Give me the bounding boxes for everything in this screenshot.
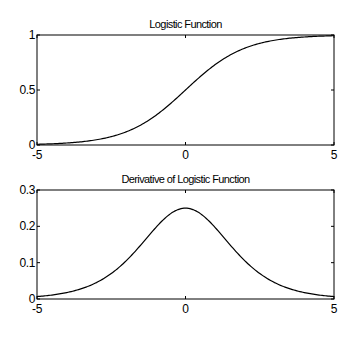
axes-box [37,190,334,299]
plot-title: Logistic Function [149,18,222,30]
y-tick-label: 1 [29,28,36,42]
x-tick-label: 0 [182,148,189,162]
y-tick-label: 0 [29,292,36,306]
plot-title: Derivative of Logistic Function [121,173,250,185]
figure: Logistic Function -50500.51 Derivative o… [0,0,356,337]
logistic-plot: Logistic Function -50500.51 [20,18,338,162]
series-line [37,208,334,296]
derivative-plot: Derivative of Logistic Function -50500.1… [20,173,338,316]
y-tick-label: 0.1 [20,256,36,270]
x-tick-label: 5 [331,148,338,162]
y-tick-label: 0.2 [20,219,36,233]
y-tick-label: 0.3 [20,183,36,197]
y-tick-label: 0.5 [20,83,36,97]
x-tick-label: 0 [182,302,189,316]
x-tick-label: 5 [331,302,338,316]
series-line [37,36,334,145]
y-tick-label: 0 [29,138,36,152]
